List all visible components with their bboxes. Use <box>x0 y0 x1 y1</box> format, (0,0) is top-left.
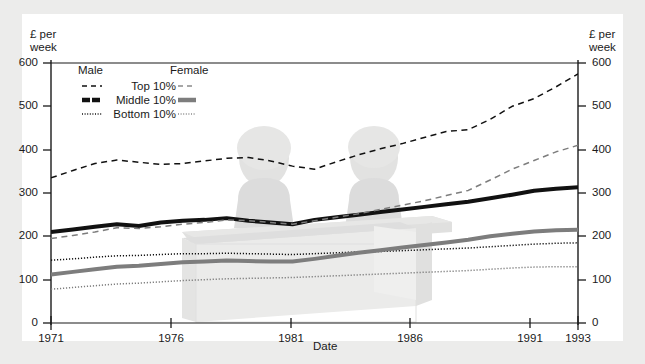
x-tick-1981: 1981 <box>269 332 313 344</box>
x-tick-1993: 1993 <box>556 332 600 344</box>
y-tick-right-500: 500 <box>592 99 622 111</box>
y-tick-right-400: 400 <box>592 143 622 155</box>
y-tick-left-200: 200 <box>8 229 38 241</box>
y-tick-right-100: 100 <box>592 273 622 285</box>
x-tick-1971: 1971 <box>29 332 73 344</box>
chart-canvas <box>0 0 645 364</box>
y-tick-right-300: 300 <box>592 186 622 198</box>
chart-figure: £ per week £ per week Date Male Female T… <box>0 0 645 364</box>
y-tick-right-0: 0 <box>592 316 622 328</box>
series-line-male-top-10 <box>51 74 578 178</box>
y-tick-right-200: 200 <box>592 229 622 241</box>
y-tick-left-100: 100 <box>8 273 38 285</box>
watermark-people-desk <box>182 126 452 322</box>
x-tick-1991: 1991 <box>508 332 552 344</box>
y-tick-left-600: 600 <box>8 56 38 68</box>
x-tick-1976: 1976 <box>149 332 193 344</box>
y-tick-right-600: 600 <box>592 56 622 68</box>
y-tick-left-500: 500 <box>8 99 38 111</box>
y-tick-left-400: 400 <box>8 143 38 155</box>
y-tick-left-300: 300 <box>8 186 38 198</box>
x-tick-1986: 1986 <box>388 332 432 344</box>
y-tick-left-0: 0 <box>8 316 38 328</box>
